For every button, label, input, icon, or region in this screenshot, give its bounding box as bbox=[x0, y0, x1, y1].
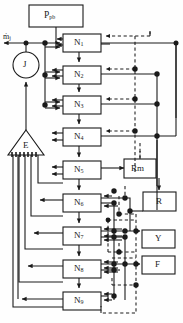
label-j: J bbox=[23, 60, 27, 69]
label-n3: N3 bbox=[74, 100, 84, 109]
dot bbox=[133, 282, 138, 287]
dot bbox=[133, 228, 138, 233]
dot bbox=[132, 96, 137, 101]
label-n4: N4 bbox=[74, 132, 84, 141]
label-f: F bbox=[155, 260, 160, 269]
dot bbox=[154, 101, 159, 106]
dot bbox=[122, 261, 127, 266]
dot bbox=[116, 249, 121, 254]
dot bbox=[122, 228, 127, 233]
label-n9: N9 bbox=[74, 296, 84, 305]
dot bbox=[122, 234, 127, 239]
label-ppb: Ppb bbox=[44, 11, 55, 21]
dot bbox=[132, 66, 137, 71]
label-n6: N6 bbox=[74, 198, 84, 207]
label-y: Y bbox=[155, 234, 162, 243]
dot bbox=[42, 72, 47, 77]
diagram-canvas: Ppb ṁj J E N1 N2 N3 N4 N5 N6 N7 N8 N9 Rm… bbox=[0, 0, 183, 323]
e-node-hatching bbox=[12, 152, 36, 157]
diagram-vector-layer bbox=[0, 0, 183, 323]
dot bbox=[133, 261, 138, 266]
dot bbox=[111, 200, 116, 205]
dot bbox=[122, 195, 127, 200]
dot bbox=[42, 102, 47, 107]
boxes-layer bbox=[8, 5, 176, 310]
dot bbox=[24, 41, 29, 46]
label-rm: Rm bbox=[131, 164, 144, 173]
label-n7: N7 bbox=[74, 231, 84, 240]
label-n5: N5 bbox=[74, 165, 84, 174]
dot bbox=[111, 234, 116, 239]
label-n8: N8 bbox=[74, 264, 84, 273]
dot bbox=[174, 41, 179, 46]
dot bbox=[127, 208, 132, 213]
dot bbox=[42, 40, 47, 45]
label-n1: N1 bbox=[74, 38, 84, 47]
dot bbox=[154, 133, 159, 138]
label-r: R bbox=[156, 197, 162, 206]
dot bbox=[111, 267, 116, 272]
dot bbox=[111, 293, 116, 298]
dot bbox=[154, 71, 159, 76]
dot bbox=[116, 211, 121, 216]
dot bbox=[111, 261, 116, 266]
label-n2: N2 bbox=[74, 70, 84, 79]
dot bbox=[111, 228, 116, 233]
dot bbox=[106, 218, 111, 223]
label-e: E bbox=[23, 141, 29, 150]
label-mdot-j: ṁj bbox=[3, 33, 11, 41]
dot bbox=[111, 188, 116, 193]
dot bbox=[132, 128, 137, 133]
box-ppb bbox=[29, 5, 83, 27]
